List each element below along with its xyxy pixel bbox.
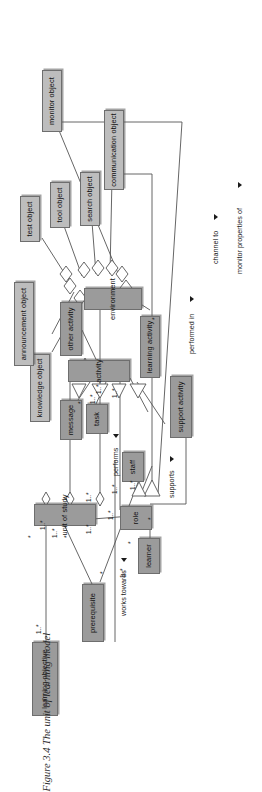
multiplicity: 1..* [90, 394, 96, 404]
node-label: tool object [56, 188, 63, 223]
multiplicity: 1..* [86, 524, 92, 534]
node-label: search object [86, 176, 93, 221]
assoc-text: performed in [187, 314, 196, 354]
node-label: other activity [67, 308, 74, 351]
node-tool-object[interactable]: tool object [50, 182, 70, 228]
node-monitor-object[interactable]: monitor object [42, 70, 62, 132]
assoc-label-performs: performs [112, 448, 119, 476]
node-label: monitor object [48, 77, 55, 125]
node-message[interactable]: message [60, 400, 82, 440]
node-label: learner [145, 544, 152, 568]
multiplicity: 1..* [130, 480, 136, 490]
multiplicity: * [100, 572, 106, 575]
node-label: test object [26, 202, 33, 237]
multiplicity: * [152, 318, 158, 321]
node-label: learning objective [41, 649, 48, 708]
node-search-object[interactable]: search object [80, 172, 100, 226]
node-label: unit of study [61, 494, 68, 535]
node-label: activity [95, 359, 102, 382]
node-learning-objective[interactable]: learning objective [32, 642, 58, 716]
supports-direction-icon [170, 456, 174, 462]
performs-direction-icon [113, 434, 119, 438]
assoc-text: performs [111, 448, 120, 476]
assoc-label-channel-to: channel to [212, 231, 219, 264]
channel-to-direction-icon [214, 214, 218, 220]
assoc-text: channel to [211, 231, 220, 264]
node-test-object[interactable]: test object [20, 196, 40, 242]
assoc-label-performed-in: performed in [188, 314, 195, 354]
monitor-properties-of-direction-icon [238, 182, 242, 188]
node-other-activity[interactable]: other activity [60, 302, 82, 356]
multiplicity: 1..* [108, 510, 114, 520]
node-staff[interactable]: staff [122, 452, 144, 482]
node-label: task [93, 412, 100, 426]
node-label: role [132, 512, 139, 525]
node-label: environment [109, 278, 116, 320]
assoc-text: monitor properties of [235, 208, 244, 274]
assoc-label-supports: supports [168, 470, 175, 498]
node-communication-object[interactable]: communication object [104, 110, 124, 190]
multiplicity: * [64, 536, 70, 539]
node-announcement-object[interactable]: announcement object [14, 282, 34, 366]
multiplicity: * [148, 518, 154, 521]
multiplicity: * [78, 402, 84, 405]
works-towards-direction-icon [121, 558, 127, 562]
node-label: knowledge object [36, 359, 43, 418]
multiplicity: 1..* [36, 624, 42, 634]
node-label: staff [129, 460, 136, 474]
node-label: message [67, 405, 74, 436]
node-learner[interactable]: learner [138, 538, 160, 574]
multiplicity: 1..* [112, 484, 118, 494]
assoc-label-monitor-properties-of: monitor properties of [236, 208, 243, 274]
node-label: communication object [110, 113, 117, 186]
node-learning-activity[interactable]: learning activity [140, 316, 160, 378]
node-activity[interactable]: activity [68, 360, 130, 382]
multiplicity: 1..* [40, 520, 46, 530]
multiplicity: * [28, 536, 34, 539]
assoc-text: supports [167, 470, 176, 498]
multiplicity: 1..* [52, 528, 58, 538]
multiplicity: 1..* [96, 384, 102, 394]
node-support-activity[interactable]: support activity [170, 376, 192, 438]
performed-in-direction-icon [190, 296, 194, 302]
node-task[interactable]: task [86, 404, 108, 434]
node-label: prerequisite [89, 593, 96, 633]
multiplicity: 1..* [120, 568, 126, 578]
multiplicity: * [64, 498, 70, 501]
node-label: learning activity [146, 321, 153, 374]
multiplicity: 1..* [86, 492, 92, 502]
node-prerequisite[interactable]: prerequisite [82, 584, 104, 642]
node-label: announcement object [20, 288, 27, 361]
multiplicity: 1..* [112, 388, 118, 398]
multiplicity: * [128, 542, 134, 545]
node-environment[interactable]: environment [84, 288, 142, 310]
node-label: support activity [177, 382, 184, 433]
